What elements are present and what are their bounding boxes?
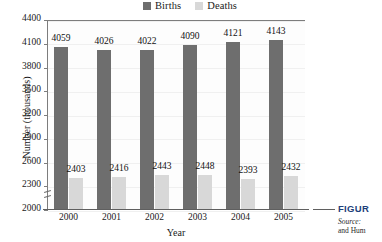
chart-legend: Births Deaths (143, 1, 237, 12)
bar-value-label: 4143 (266, 27, 285, 37)
figure-caption: FIGUR Source: and Hum (338, 203, 382, 236)
legend-swatch-births (143, 2, 151, 10)
bar-births-2001[interactable]: 4026 (97, 50, 111, 210)
bar-deaths-2001[interactable]: 2416 (112, 177, 126, 210)
legend-entry-deaths: Deaths (195, 1, 237, 12)
x-tick-label-2002: 2002 (133, 212, 176, 222)
y-tick-label: 2300 (8, 180, 41, 190)
legend-label-births: Births (155, 1, 181, 12)
bar-deaths-2004[interactable]: 2393 (241, 179, 255, 210)
figure-caption-title: FIGUR (338, 203, 382, 214)
bar-group: 41432432 (262, 20, 305, 210)
bar-group: 41212393 (219, 20, 262, 210)
legend-swatch-deaths (195, 2, 203, 10)
bar-deaths-2005[interactable]: 2432 (284, 176, 298, 210)
y-tick-label: 4400 (8, 14, 41, 24)
bar-group: 40902448 (176, 20, 219, 210)
bar-group: 40222443 (133, 20, 176, 210)
y-tick-label: 3500 (8, 85, 41, 95)
x-tick-label-2003: 2003 (176, 212, 219, 222)
x-tick-label-2001: 2001 (90, 212, 133, 222)
y-tick-label: 3800 (8, 62, 41, 72)
x-tick-label-2000: 2000 (47, 212, 90, 222)
bar-value-label: 2393 (239, 166, 258, 176)
bar-births-2003[interactable]: 4090 (183, 45, 197, 210)
figure-caption-source: Source: and Hum (338, 217, 382, 236)
y-tick-label: 2900 (8, 133, 41, 143)
caption-rule (313, 209, 335, 210)
bar-deaths-2002[interactable]: 2443 (155, 175, 169, 210)
x-tick-label-2005: 2005 (262, 212, 305, 222)
legend-entry-births: Births (143, 1, 181, 12)
bar-group: 40592403 (47, 20, 90, 210)
x-axis-title: Year (47, 227, 305, 238)
y-tick-label: 2000 (8, 204, 41, 214)
bar-value-label: 4121 (223, 29, 242, 39)
bar-value-label: 2403 (67, 165, 86, 175)
bar-births-2002[interactable]: 4022 (140, 50, 154, 210)
bar-value-label: 2448 (196, 162, 215, 172)
bar-groups: 4059240340262416402224434090244841212393… (47, 20, 305, 210)
y-tick-label: 2600 (8, 157, 41, 167)
legend-label-deaths: Deaths (207, 1, 237, 12)
bar-value-label: 2443 (153, 162, 172, 172)
bar-births-2005[interactable]: 4143 (269, 40, 283, 210)
caption-source-lead: Source: (338, 217, 361, 226)
x-tick-label-2004: 2004 (219, 212, 262, 222)
figure-container: Births Deaths Number (thousands) 4400410… (0, 0, 382, 242)
bar-group: 40262416 (90, 20, 133, 210)
bar-value-label: 2416 (110, 164, 129, 174)
bar-value-label: 4059 (51, 34, 70, 44)
bar-value-label: 4090 (180, 32, 199, 42)
y-tick-label: 4100 (8, 38, 41, 48)
bar-deaths-2000[interactable]: 2403 (69, 178, 83, 210)
bar-births-2000[interactable]: 4059 (54, 47, 68, 210)
bar-value-label: 4022 (137, 37, 156, 47)
bar-value-label: 4026 (94, 37, 113, 47)
bar-deaths-2003[interactable]: 2448 (198, 175, 212, 210)
bar-value-label: 2432 (282, 163, 301, 173)
y-tick-mark (44, 210, 48, 211)
bar-births-2004[interactable]: 4121 (226, 42, 240, 210)
x-axis-tick-labels: 200020012002200320042005 (47, 212, 305, 222)
caption-source-line2: and Hum (338, 226, 366, 235)
y-tick-label: 3200 (8, 109, 41, 119)
x-axis-line (43, 209, 309, 210)
